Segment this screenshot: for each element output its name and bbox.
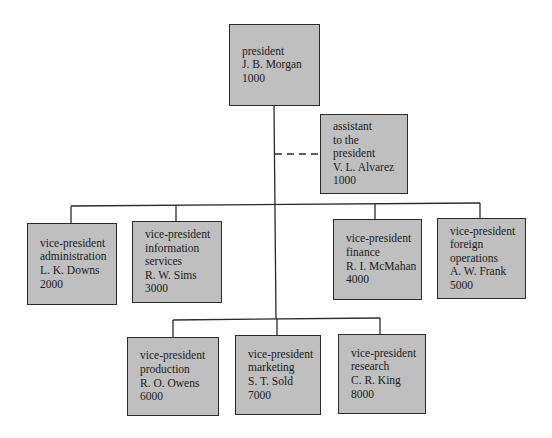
node-name: L. K. Downs: [40, 264, 116, 278]
node-vp-production: vice-president production R. O. Owens 60…: [127, 337, 219, 416]
node-assistant: assistant to the president V. L. Alvarez…: [320, 114, 408, 194]
trunk-line: [274, 105, 276, 319]
node-vp-information-services: vice-president information services R. W…: [132, 221, 222, 303]
node-title: vice-president: [145, 228, 221, 242]
node-code: 5000: [450, 279, 525, 293]
node-dept: marketing: [248, 361, 320, 375]
node-vp-marketing: vice-president marketing S. T. Sold 7000: [235, 335, 321, 415]
node-name: R. W. Sims: [145, 269, 221, 283]
node-code: 7000: [248, 389, 320, 403]
node-name: V. L. Alvarez: [333, 161, 407, 175]
node-president: president J. B. Morgan 1000: [229, 24, 320, 106]
node-dept: finance: [346, 246, 421, 260]
node-vp-foreign-operations: vice-president foreign operations A. W. …: [437, 218, 526, 299]
node-dept: foreign: [450, 238, 525, 252]
node-vp-administration: vice-president administration L. K. Down…: [27, 223, 117, 305]
node-name: S. T. Sold: [248, 375, 320, 389]
node-code: 1000: [333, 174, 407, 188]
node-title: vice-president: [40, 237, 116, 251]
node-dept: production: [140, 363, 218, 377]
node-code: 3000: [145, 282, 221, 296]
node-title: vice-president: [248, 348, 320, 362]
node-dept: information: [145, 242, 221, 256]
node-title: vice-president: [450, 225, 525, 239]
node-title: assistant: [333, 120, 407, 134]
node-dept: operations: [450, 252, 525, 266]
node-title: vice-president: [351, 347, 425, 361]
node-title: vice-president: [140, 349, 218, 363]
node-name: R. O. Owens: [140, 377, 218, 391]
node-vp-finance: vice-president finance R. I. McMahan 400…: [333, 219, 422, 300]
node-dept: services: [145, 255, 221, 269]
node-code: 4000: [346, 273, 421, 287]
node-code: 8000: [351, 388, 425, 402]
node-title: president: [242, 45, 319, 59]
node-code: 2000: [40, 278, 116, 292]
node-dept: administration: [40, 250, 116, 264]
node-vp-research: vice-president research C. R. King 8000: [338, 334, 426, 414]
node-name: R. I. McMahan: [346, 260, 421, 274]
node-dept: research: [351, 360, 425, 374]
node-name: A. W. Frank: [450, 265, 525, 279]
node-name: J. B. Morgan: [242, 58, 319, 72]
node-title: vice-president: [346, 232, 421, 246]
node-code: 6000: [140, 390, 218, 404]
node-title: president: [333, 147, 407, 161]
org-chart: president J. B. Morgan 1000 assistant to…: [0, 0, 552, 438]
node-code: 1000: [242, 72, 319, 86]
node-name: C. R. King: [351, 374, 425, 388]
node-title: to the: [333, 134, 407, 148]
